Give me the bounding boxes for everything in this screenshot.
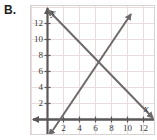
y-axis-label: y bbox=[51, 8, 55, 18]
x-tick-label-6: 6 bbox=[89, 124, 102, 133]
x-tick-label-2: 2 bbox=[57, 124, 70, 133]
y-tick-label-8: 8 bbox=[30, 51, 43, 60]
y-tick-label-4: 4 bbox=[30, 83, 43, 92]
graph-svg bbox=[31, 6, 155, 135]
x-tick-label-10: 10 bbox=[119, 124, 136, 133]
coordinate-plane: y x 2 4 6 8 10 12 2 4 6 8 10 12 bbox=[30, 5, 155, 135]
y-tick-label-12: 12 bbox=[30, 19, 43, 28]
x-tick-label-4: 4 bbox=[73, 124, 86, 133]
y-tick-label-2: 2 bbox=[30, 99, 43, 108]
x-tick-label-12: 12 bbox=[135, 124, 152, 133]
x-axis-label: x bbox=[144, 104, 148, 114]
figure-root: B. bbox=[0, 0, 157, 140]
y-tick-label-6: 6 bbox=[30, 67, 43, 76]
x-tick-label-8: 8 bbox=[105, 124, 118, 133]
ascending-line bbox=[49, 14, 131, 135]
problem-label: B. bbox=[4, 3, 16, 17]
y-tick-label-10: 10 bbox=[30, 35, 43, 44]
